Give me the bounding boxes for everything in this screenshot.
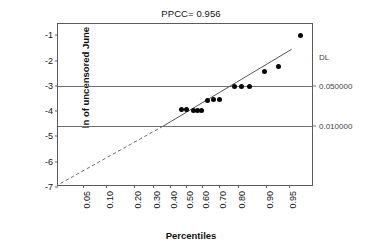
right-axis-header: DL	[319, 52, 329, 61]
x-tick-label: 0.95	[288, 191, 298, 209]
right-axis-tick	[312, 126, 316, 127]
x-tick-mark	[83, 185, 84, 188]
data-point	[205, 98, 210, 103]
x-tick-label: 0.20	[133, 191, 143, 209]
x-tick-label: 0.80	[237, 191, 247, 209]
data-point	[232, 84, 237, 89]
y-tick-label: -3	[45, 81, 53, 91]
x-tick-label: 0.30	[152, 191, 162, 209]
y-tick-label: -6	[45, 157, 53, 167]
x-tick-mark	[202, 185, 203, 188]
x-tick-label: 0.05	[82, 191, 92, 209]
regression-line	[58, 24, 312, 185]
y-tick-label: -2	[45, 56, 53, 66]
x-tick-label: 0.50	[185, 191, 195, 209]
y-tick-label: -4	[45, 106, 53, 116]
x-tick-mark	[238, 185, 239, 188]
y-tick-label: -5	[45, 131, 53, 141]
chart-title: PPCC= 0.956	[0, 8, 382, 19]
detection-limit-label: 0.010000	[319, 122, 352, 131]
y-tick-label: -7	[45, 182, 53, 192]
x-axis-title: Percentiles	[0, 230, 382, 241]
y-tick-mark	[55, 187, 58, 188]
regression-line-dashed	[60, 126, 162, 183]
regression-line-solid	[163, 49, 292, 126]
x-tick-mark	[153, 185, 154, 188]
x-tick-mark	[186, 185, 187, 188]
x-tick-label: 0.70	[218, 191, 228, 209]
plot-area: ln of uncensored June -1-2-3-4-5-6-7 0.0…	[57, 23, 313, 186]
x-tick-mark	[134, 185, 135, 188]
x-tick-label: 0.40	[169, 191, 179, 209]
data-point	[239, 84, 244, 89]
detection-limit-label: 0.050000	[319, 81, 352, 90]
probability-plot-figure: PPCC= 0.956 ln of uncensored June -1-2-3…	[0, 0, 382, 251]
x-tick-label: 0.60	[201, 191, 211, 209]
x-tick-mark	[106, 185, 107, 188]
x-tick-mark	[289, 185, 290, 188]
data-point	[262, 69, 267, 74]
data-point	[298, 33, 303, 38]
y-tick-label: -1	[45, 30, 53, 40]
data-point	[247, 84, 252, 89]
data-point	[199, 108, 204, 113]
x-tick-label: 0.90	[265, 191, 275, 209]
x-tick-mark	[266, 185, 267, 188]
right-axis-tick	[312, 85, 316, 86]
x-tick-mark	[219, 185, 220, 188]
x-tick-mark	[170, 185, 171, 188]
x-tick-label: 0.10	[105, 191, 115, 209]
